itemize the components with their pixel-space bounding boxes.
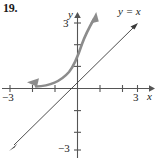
y-axis-arrow-icon <box>74 12 81 18</box>
identity-line-label: y = x <box>118 6 141 17</box>
y-tick-label-negative: −3 <box>58 143 70 154</box>
x-tick-label-positive: 3 <box>133 92 139 103</box>
coordinate-graph <box>0 0 161 160</box>
x-tick-label-negative: −3 <box>2 92 14 103</box>
identity-line <box>9 23 138 151</box>
identity-line-arrow-start-icon <box>9 144 18 152</box>
y-tick-label-positive: 3 <box>63 18 69 29</box>
curve-arrow-up-icon <box>90 12 99 24</box>
x-axis-label: x <box>147 91 152 102</box>
identity-line-arrow-end-icon <box>131 23 139 30</box>
exercise-figure: 19. <box>0 0 161 160</box>
